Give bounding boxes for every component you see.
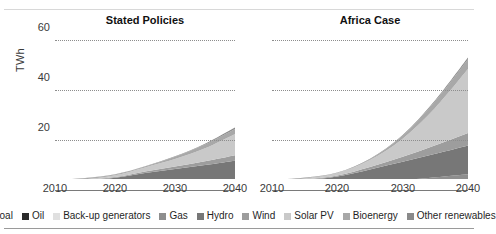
x-tick-2020: 2020 — [317, 182, 357, 194]
legend-item-label: Other renewables — [417, 211, 496, 221]
legend-item-label: Hydro — [207, 211, 234, 221]
panel-title: Africa Case — [272, 14, 468, 26]
legend-item[interactable]: Other renewables — [407, 211, 496, 221]
legend-item[interactable]: Gas — [159, 211, 187, 221]
x-tick-2030: 2030 — [155, 182, 195, 194]
y-tick-20: 20 — [24, 122, 50, 132]
legend-item[interactable]: Back-up generators — [53, 211, 150, 221]
bottom-divider — [4, 228, 474, 229]
legend-item-label: Coal — [0, 211, 13, 221]
legend-swatch-icon — [53, 213, 60, 220]
panel-title: Stated Policies — [55, 14, 235, 26]
x-tick-2040: 2040 — [448, 182, 488, 194]
axis-baseline — [272, 190, 468, 191]
x-tick-2020: 2020 — [95, 182, 135, 194]
gridline-60 — [55, 40, 235, 41]
legend-swatch-icon — [197, 213, 204, 220]
gridline-40 — [55, 90, 235, 91]
legend-item-label: Back-up generators — [63, 211, 150, 221]
legend-item[interactable]: Solar PV — [284, 211, 333, 221]
legend-swatch-icon — [242, 213, 249, 220]
legend-swatch-icon — [343, 213, 350, 220]
legend-swatch-icon — [407, 213, 414, 220]
legend-item[interactable]: Oil — [22, 211, 44, 221]
chart-legend: CoalOilBack-up generatorsGasHydroWindSol… — [0, 208, 478, 224]
panel-stated-policies: Stated Policies 2010 2020 2030 2040 — [55, 14, 235, 179]
top-divider — [4, 9, 474, 10]
legend-item[interactable]: Hydro — [197, 211, 234, 221]
legend-item-label: Bioenergy — [353, 211, 398, 221]
gridline-60 — [272, 40, 468, 41]
legend-item-label: Wind — [252, 211, 275, 221]
legend-swatch-icon — [159, 213, 166, 220]
plot-area — [55, 27, 235, 179]
legend-item[interactable]: Bioenergy — [343, 211, 398, 221]
legend-item[interactable]: Wind — [242, 211, 275, 221]
x-tick-2030: 2030 — [383, 182, 423, 194]
x-tick-2040: 2040 — [215, 182, 255, 194]
gridline-20 — [55, 140, 235, 141]
panel-africa-case: Africa Case 2010 2020 2030 2040 — [272, 14, 468, 179]
legend-item-label: Solar PV — [294, 211, 333, 221]
x-tick-2010: 2010 — [35, 182, 75, 194]
gridline-20 — [272, 140, 468, 141]
legend-swatch-icon — [284, 213, 291, 220]
legend-item-label: Gas — [169, 211, 187, 221]
area-chart-svg — [55, 27, 235, 179]
legend-item-label: Oil — [32, 211, 44, 221]
area-chart-svg — [272, 27, 468, 179]
y-tick-40: 40 — [24, 72, 50, 82]
axis-baseline — [55, 190, 235, 191]
legend-item[interactable]: Coal — [0, 211, 13, 221]
legend-swatch-icon — [22, 213, 29, 220]
gridline-40 — [272, 90, 468, 91]
x-tick-2010: 2010 — [252, 182, 292, 194]
plot-area — [272, 27, 468, 179]
y-tick-60: 60 — [24, 22, 50, 32]
